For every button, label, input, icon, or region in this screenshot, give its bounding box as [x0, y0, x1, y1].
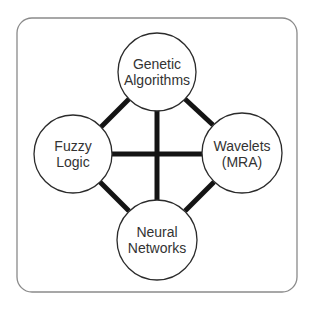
node-label-wavelets-mra: Wavelets (MRA)	[202, 138, 282, 170]
node-label-line: (MRA)	[202, 154, 282, 170]
node-label-line: Neural	[117, 224, 197, 240]
node-label-line: Wavelets	[202, 138, 282, 154]
node-label-fuzzy-logic: Fuzzy Logic	[33, 138, 113, 170]
node-label-line: Networks	[117, 240, 197, 256]
node-label-line: Logic	[33, 154, 113, 170]
node-label-line: Fuzzy	[33, 138, 113, 154]
node-label-genetic-algorithms: Genetic Algorithms	[117, 56, 197, 88]
node-label-line: Algorithms	[117, 72, 197, 88]
node-label-line: Genetic	[117, 56, 197, 72]
node-label-neural-networks: Neural Networks	[117, 224, 197, 256]
